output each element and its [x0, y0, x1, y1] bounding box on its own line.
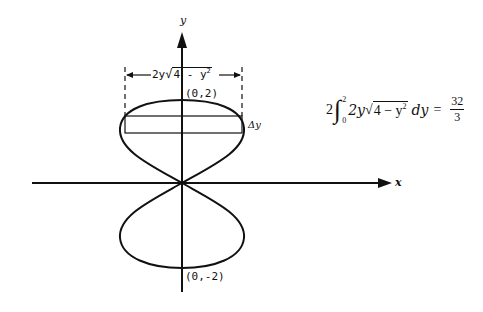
result-fraction: 32 3: [450, 94, 464, 125]
integral-sign-icon: ∫: [334, 97, 341, 123]
sqrt-icon: √: [365, 102, 373, 118]
width-label-prefix: 2y: [152, 68, 165, 81]
integrand-prefix: 2y: [348, 102, 365, 118]
top-point-label: (0,2): [185, 87, 218, 100]
integral-formula: 2 ∫ 2 0 2y √ 4 − y2 dy = 32 3: [326, 94, 464, 125]
formula-radicand-text: 4 − y: [374, 102, 403, 117]
strip-height-label: Δy: [248, 119, 261, 130]
x-axis-arrow-icon: [378, 178, 392, 188]
equals-sign: =: [433, 102, 441, 118]
denominator: 3: [454, 110, 460, 125]
strip-rectangle: [125, 116, 242, 133]
y-axis-arrow-icon: [177, 32, 187, 48]
differential: dy: [412, 102, 429, 118]
width-label: 2y√4 - y2: [152, 67, 212, 81]
width-label-radicand: 4 - y2: [172, 67, 211, 81]
width-left-arrow-icon: [126, 72, 133, 78]
integral-limits: 2 0: [342, 95, 346, 125]
upper-limit: 2: [342, 95, 346, 104]
formula-radicand: 4 − y2: [373, 101, 408, 119]
width-label-exp: 2: [207, 67, 211, 75]
width-right-arrow-icon: [234, 72, 241, 78]
diagram-canvas: [0, 0, 483, 312]
width-radicand-text: 4 - y: [173, 68, 206, 81]
y-axis-label: y: [180, 14, 186, 27]
bottom-point-label: (0,-2): [185, 270, 225, 283]
x-axis-label: x: [395, 176, 402, 189]
numerator: 32: [451, 94, 463, 109]
formula-coefficient: 2: [326, 102, 333, 118]
lower-limit: 0: [342, 116, 346, 125]
formula-exp: 2: [403, 102, 407, 111]
